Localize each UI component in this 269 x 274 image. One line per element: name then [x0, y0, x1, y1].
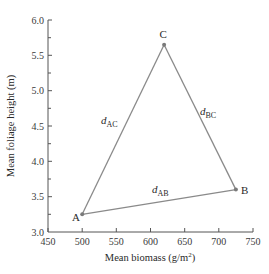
y-tick-labels: 3.0 3.5 4.0 4.5 5.0 5.5 6.0 [32, 15, 45, 238]
y-tick-label: 4.0 [32, 156, 45, 167]
x-tick-label: 750 [246, 236, 261, 247]
point-b [234, 188, 238, 192]
edge-label-ab: dAB [152, 183, 169, 198]
x-tick-label: 650 [177, 236, 192, 247]
point-label-c: C [160, 28, 167, 40]
edge-label-ac: dAC [101, 114, 118, 129]
edge-label-bc: dBC [200, 105, 216, 120]
x-tick-label: 500 [75, 236, 90, 247]
y-axis-title: Mean foliage height (m) [5, 74, 17, 177]
x-tick-label: 600 [143, 236, 158, 247]
y-tick-label: 6.0 [32, 15, 45, 26]
chart: 3.0 3.5 4.0 4.5 5.0 5.5 6.0 450 500 550 … [0, 0, 269, 274]
point-label-b: B [241, 184, 248, 196]
x-axis-title: Mean biomass (g/m2) [105, 251, 196, 264]
point-label-a: A [72, 211, 80, 223]
x-tick-labels: 450 500 550 600 650 700 750 [41, 236, 261, 247]
point-c [162, 43, 166, 47]
x-tick-label: 450 [41, 236, 56, 247]
x-tick-label: 550 [109, 236, 124, 247]
y-axis [48, 20, 52, 232]
y-tick-label: 5.0 [32, 85, 45, 96]
point-a [80, 212, 84, 216]
edge-bc [164, 45, 236, 190]
y-tick-label: 3.5 [32, 191, 45, 202]
y-tick-label: 4.5 [32, 121, 45, 132]
y-tick-label: 5.5 [32, 50, 45, 61]
x-tick-label: 700 [211, 236, 226, 247]
x-axis [48, 228, 253, 232]
